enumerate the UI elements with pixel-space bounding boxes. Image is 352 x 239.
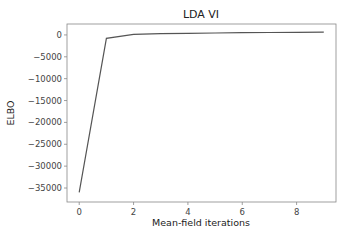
x-axis-label: Mean-field iterations [152,217,250,228]
y-tick-label: −25000 [28,139,62,149]
y-tick-label: −30000 [28,161,62,171]
plot-area-frame [67,24,336,202]
elbo-series-line [79,32,324,192]
x-tick-label: 2 [131,207,136,217]
x-tick-label: 0 [77,207,82,217]
x-tick-label: 6 [240,207,245,217]
y-tick-label: −10000 [28,74,62,84]
y-tick-label: −15000 [28,96,62,106]
y-axis-ticks: 0−5000−10000−15000−20000−25000−30000−350… [28,30,67,193]
chart-title: LDA VI [183,8,219,21]
y-tick-label: −20000 [28,117,62,127]
y-tick-label: −5000 [33,52,62,62]
x-tick-label: 4 [185,207,190,217]
line-chart: LDA VI 0−5000−10000−15000−20000−25000−30… [0,0,352,239]
y-axis-label: ELBO [5,100,16,125]
x-axis-ticks: 02468 [77,202,300,217]
x-tick-label: 8 [294,207,299,217]
y-tick-label: 0 [57,30,62,40]
y-tick-label: −35000 [28,183,62,193]
